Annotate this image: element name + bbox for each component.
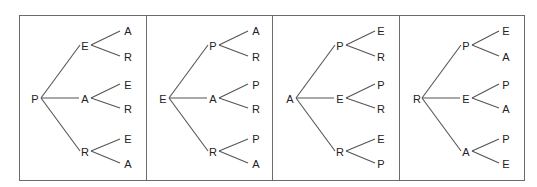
branch-node: P — [336, 40, 343, 52]
leaf-node: E — [124, 133, 131, 145]
branch-node: P — [209, 40, 216, 52]
root-node: P — [31, 93, 38, 105]
leaf-node: A — [124, 25, 132, 37]
branch-node: E — [462, 93, 469, 105]
leaf-node: P — [502, 133, 509, 145]
leaf-node: E — [124, 79, 131, 91]
leaf-node: P — [502, 79, 509, 91]
leaf-node: P — [377, 158, 384, 170]
branch-node: A — [81, 93, 89, 105]
leaf-node: R — [124, 103, 132, 115]
tree-diagrams-canvas: P E A R A R E R E A E P A R A R — [0, 0, 537, 187]
branch-node: R — [336, 146, 344, 158]
branch-node: R — [81, 146, 89, 158]
leaf-node: P — [252, 133, 259, 145]
leaf-node: R — [252, 51, 260, 63]
tree-panel-2: E P A R A R P R P A — [159, 25, 260, 170]
leaf-node: A — [124, 158, 132, 170]
root-node: A — [286, 93, 294, 105]
tree-panel-4: R P E A E A P A P E — [413, 25, 510, 170]
branch-node: P — [462, 40, 469, 52]
leaf-node: A — [502, 103, 510, 115]
branch-node: A — [462, 146, 470, 158]
tree-diagram-figure: P E A R A R E R E A E P A R A R — [0, 0, 537, 187]
leaf-node: R — [377, 103, 385, 115]
leaf-node: R — [377, 51, 385, 63]
tree-panel-1: P E A R A R E R E A — [31, 25, 132, 170]
leaf-node: E — [502, 25, 509, 37]
leaf-node: E — [502, 158, 509, 170]
leaf-node: R — [124, 51, 132, 63]
leaf-node: A — [252, 158, 260, 170]
branch-node: E — [336, 93, 343, 105]
leaf-node: P — [252, 79, 259, 91]
leaf-node: A — [252, 25, 260, 37]
leaf-node: E — [377, 25, 384, 37]
leaf-node: A — [502, 51, 510, 63]
root-node: R — [413, 93, 421, 105]
leaf-node: P — [377, 79, 384, 91]
leaf-node: R — [252, 103, 260, 115]
branch-node: E — [81, 40, 88, 52]
leaf-node: E — [377, 133, 384, 145]
tree-panel-3: A P E R E R P R E P — [286, 25, 385, 170]
branch-node: R — [209, 146, 217, 158]
root-node: E — [159, 93, 166, 105]
branch-node: A — [209, 93, 217, 105]
